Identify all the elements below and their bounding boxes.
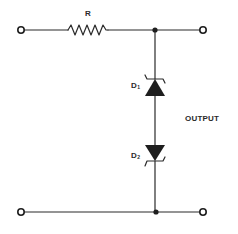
input-terminal-top <box>18 27 24 33</box>
top-junction-dot <box>152 27 157 32</box>
output-terminal-top <box>200 27 206 33</box>
d2-label: D2 <box>131 152 140 160</box>
d2-label-letter: D <box>131 151 137 160</box>
resistor-label: R <box>85 10 91 18</box>
d1-label-subscript: 1 <box>137 84 140 90</box>
d2-label-subscript: 2 <box>137 154 140 160</box>
d1-label: D1 <box>131 82 140 90</box>
output-label: OUTPUT <box>185 115 219 123</box>
d2-diode-body <box>145 145 165 161</box>
input-terminal-bottom <box>18 209 24 215</box>
bottom-junction-dot <box>153 209 158 214</box>
output-terminal-bottom <box>200 209 206 215</box>
d1-label-letter: D <box>131 81 137 90</box>
resistor-r <box>68 25 108 35</box>
d1-diode-body <box>145 79 165 96</box>
